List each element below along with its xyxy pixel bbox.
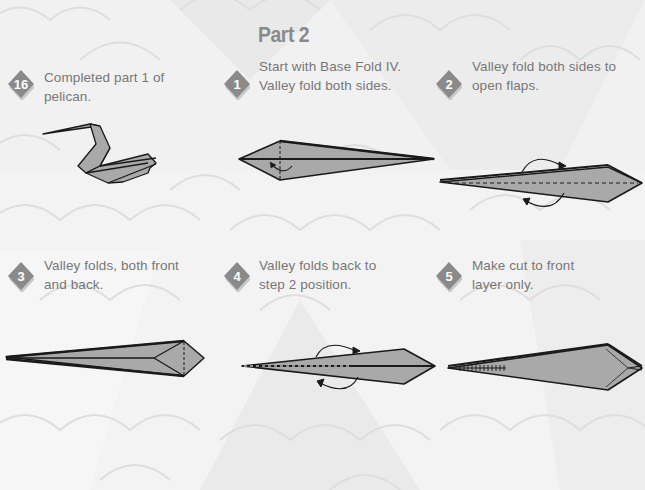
- diagram-open-flaps: [438, 155, 643, 215]
- diagram-completed-pelican-part1: [38, 118, 163, 188]
- step-text-line2: and back.: [44, 275, 179, 294]
- diagram-valley-folds-front-back: [4, 338, 208, 388]
- step-number-badge: 2: [436, 70, 462, 96]
- step-number-badge: 3: [8, 262, 34, 288]
- diamond-badge-icon: 3: [8, 262, 34, 292]
- diamond-badge-icon: 2: [436, 70, 462, 100]
- diamond-badge-icon: 16: [8, 70, 34, 100]
- step-text-line1: Make cut to front: [472, 256, 574, 275]
- svg-text:5: 5: [445, 269, 452, 284]
- diagram-kite-base-valley-fold: [236, 135, 436, 185]
- diamond-badge-icon: 1: [224, 70, 250, 100]
- step-text-line1: Valley fold both sides to: [472, 57, 616, 76]
- step-number-badge: 5: [436, 262, 462, 288]
- step-text-line1: Start with Base Fold IV.: [259, 57, 401, 76]
- diagram-cut-front-layer: [446, 340, 645, 395]
- svg-text:3: 3: [17, 269, 24, 284]
- step-number-badge: 4: [224, 262, 250, 288]
- step-text-line1: Valley folds, both front: [44, 256, 179, 275]
- svg-text:4: 4: [233, 269, 241, 284]
- step-text-line1: Completed part 1 of: [44, 68, 164, 87]
- step-text-line2: Valley fold both sides.: [259, 76, 401, 95]
- step-text-line2: open flaps.: [472, 76, 616, 95]
- svg-text:2: 2: [445, 77, 452, 92]
- diamond-badge-icon: 4: [224, 262, 250, 292]
- svg-text:1: 1: [233, 77, 240, 92]
- diamond-badge-icon: 5: [436, 262, 462, 292]
- step-text-line2: layer only.: [472, 275, 574, 294]
- svg-text:16: 16: [14, 77, 28, 92]
- step-text-line1: Valley folds back to: [259, 256, 376, 275]
- step-text-line2: step 2 position.: [259, 275, 376, 294]
- step-text-line2: pelican.: [44, 87, 164, 106]
- diagram-fold-back-step2: [240, 335, 440, 395]
- page-title: Part 2: [258, 22, 309, 48]
- step-number-badge: 16: [8, 70, 34, 96]
- step-number-badge: 1: [224, 70, 250, 96]
